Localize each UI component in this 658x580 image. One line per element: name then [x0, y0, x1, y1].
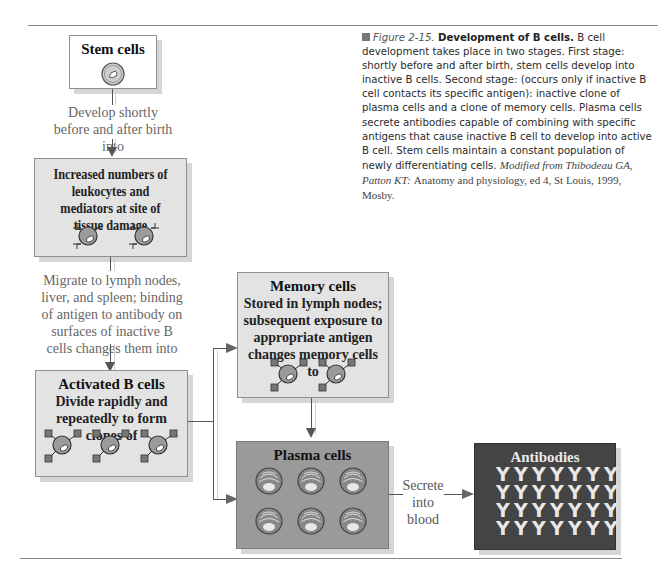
leukocytes-box: Increased numbers of leukocytes and medi… — [34, 158, 187, 257]
leukocyte-icon — [69, 217, 107, 255]
edge-line — [188, 421, 214, 422]
edge-line — [112, 89, 113, 105]
antibodies-grid: YYYYYYYYYYYYYYYYYYYYYYYYYYYY — [494, 465, 620, 537]
stem-cells-box: Stem cells — [69, 35, 157, 89]
plasma-cells-box: Plasma cells — [236, 441, 389, 549]
activated-b-cells-title: Activated B cells — [36, 376, 187, 393]
antibody-icon: Y — [602, 519, 620, 537]
stem-cells-title: Stem cells — [70, 41, 156, 58]
plasma-cell-icon — [296, 506, 326, 536]
antibody-icon: Y — [530, 519, 548, 537]
memory-cells-title: Memory cells — [238, 278, 388, 295]
memory-cells — [266, 355, 360, 393]
antibody-icon: Y — [548, 519, 566, 537]
caption-marker-icon — [362, 33, 370, 41]
figure-caption: Figure 2-15. Development of B cells. B c… — [362, 31, 652, 203]
top-rule — [28, 25, 658, 26]
edge-line — [213, 348, 214, 499]
figure-heading: Development of B cells. — [438, 32, 574, 43]
activated-b-cell-icon — [88, 426, 134, 464]
leukocyte-cells — [69, 217, 163, 255]
plasma-cell-icon — [338, 466, 368, 496]
edge-shadow — [217, 350, 218, 500]
plasma-cell-icon — [338, 506, 368, 536]
memory-cell-icon — [314, 355, 360, 393]
arrow-right-icon — [462, 489, 474, 499]
activated-b-cells-box: Activated B cells Divide rapidly and rep… — [35, 370, 188, 477]
edge-label-plasma-to-antibodies: Secrete into blood — [400, 477, 446, 528]
figure-number: Figure 2-15. — [373, 32, 435, 43]
activated-b-cell-icon — [136, 426, 182, 464]
antibody-icon: Y — [566, 519, 584, 537]
antibody-icon: Y — [512, 519, 530, 537]
arrow-down-icon — [107, 147, 117, 157]
plasma-cell-icon — [296, 466, 326, 496]
arrow-down-icon — [306, 428, 316, 438]
stem-cell-icon — [100, 61, 126, 87]
leukocyte-icon — [125, 217, 163, 255]
edge-line — [311, 398, 312, 432]
plasma-cells-title: Plasma cells — [237, 447, 388, 464]
edge-line — [110, 257, 111, 271]
plasma-cell-icon — [254, 466, 284, 496]
plasma-cell-icon — [254, 506, 284, 536]
caption-text: B cell development takes place in two st… — [362, 32, 652, 171]
edge-shadow — [114, 257, 115, 271]
plasma-cells-grid — [254, 466, 368, 536]
antibody-icon: Y — [584, 519, 602, 537]
edge-label-leukocytes-to-activated: Migrate to lymph nodes, liver, and splee… — [40, 272, 184, 357]
edge-shadow — [115, 89, 116, 105]
antibody-icon: Y — [494, 519, 512, 537]
activated-cells — [40, 426, 182, 464]
memory-cell-icon — [266, 355, 312, 393]
activated-b-cell-icon — [40, 426, 86, 464]
memory-cells-box: Memory cells Stored in lymph nodes; subs… — [237, 272, 389, 398]
bottom-rule — [20, 558, 622, 559]
